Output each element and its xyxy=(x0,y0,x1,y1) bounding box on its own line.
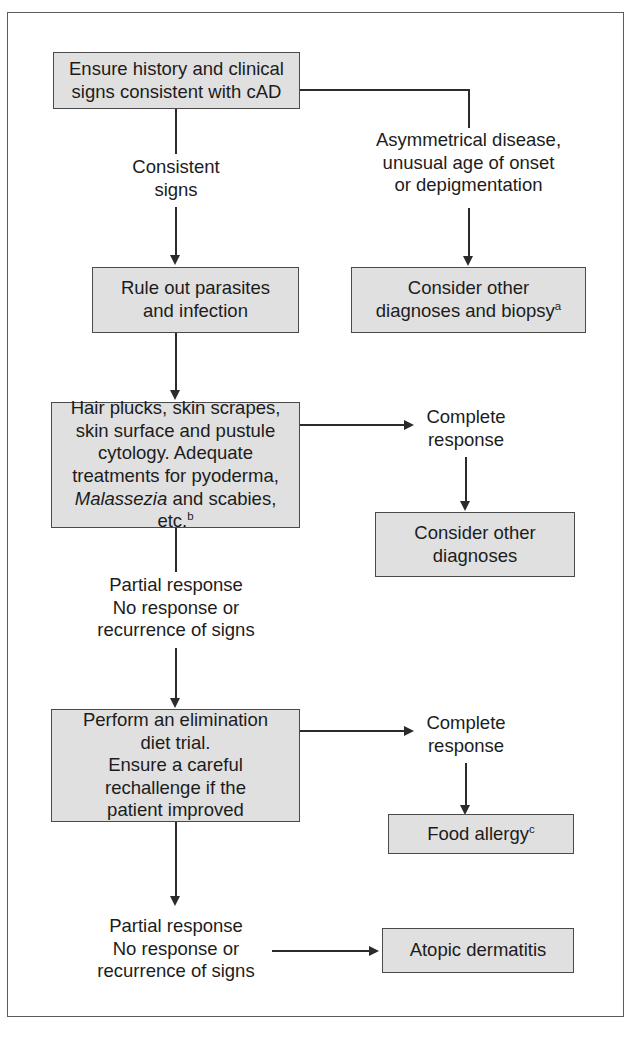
edge-label-consistent-signs-line1: Consistent xyxy=(132,156,219,177)
node-food-allergy-footnote: c xyxy=(529,823,535,835)
node-consider-other-line2: diagnoses xyxy=(433,545,517,566)
node-diagnostics-footnote: b xyxy=(187,510,193,522)
arrowhead-to-rule-out-icon xyxy=(170,255,180,265)
edge-complete-response-1-to-consider-other xyxy=(465,457,467,505)
node-diagnostics-line2: skin surface and pustule xyxy=(76,420,276,441)
edge-label-asymmetrical-line1: Asymmetrical disease, xyxy=(376,129,561,150)
flowchart-figure: Ensure history and clinical signs consis… xyxy=(0,0,636,1038)
edge-label-complete-response-2-line2: response xyxy=(428,735,504,756)
node-consider-other-biopsy: Consider other diagnoses and biopsya xyxy=(351,267,586,333)
arrowhead-to-consider-other-icon xyxy=(460,501,470,511)
node-elimination-diet-line5: patient improved xyxy=(107,799,244,820)
edge-label-consistent-signs-line2: signs xyxy=(154,179,197,200)
node-elimination-diet-line4: rechallenge if the xyxy=(105,777,246,798)
edge-label-partial-1-line3: recurrence of signs xyxy=(97,619,254,640)
edge-ensure-to-right xyxy=(300,89,470,91)
edge-label-consistent-signs: Consistent signs xyxy=(96,156,256,201)
edge-label-complete-response-1-line2: response xyxy=(428,429,504,450)
arrowhead-to-elimination-diet-icon xyxy=(170,698,180,708)
edge-partial-response-1-to-elimination-diet xyxy=(175,648,177,702)
edge-label-complete-response-1-line1: Complete xyxy=(426,406,505,427)
node-elimination-diet-line3: Ensure a careful xyxy=(108,754,243,775)
arrowhead-to-atopic-dermatitis-icon xyxy=(369,946,379,956)
node-ensure-history-line1: Ensure history and clinical xyxy=(69,58,284,79)
edge-label-partial-2-line1: Partial response xyxy=(109,915,243,936)
node-food-allergy-line1: Food allergy xyxy=(427,823,529,844)
edge-ensure-to-consistent-signs xyxy=(175,109,177,154)
edge-label-complete-response-2: Complete response xyxy=(391,712,541,757)
edge-label-complete-response-2-line1: Complete xyxy=(426,712,505,733)
node-ensure-history: Ensure history and clinical signs consis… xyxy=(53,52,300,109)
edge-partial-response-2-to-atopic-dermatitis xyxy=(272,950,371,952)
node-elimination-diet-line2: diet trial. xyxy=(141,732,211,753)
edge-label-asymmetrical-line3: or depigmentation xyxy=(394,174,542,195)
node-diagnostics-line5-italic: Malassezia xyxy=(75,488,168,509)
node-diagnostics-line1: Hair plucks, skin scrapes, xyxy=(71,397,281,418)
node-food-allergy: Food allergyc xyxy=(388,814,574,854)
arrowhead-to-partial-response-2-icon xyxy=(170,896,180,906)
edge-label-partial-1-line1: Partial response xyxy=(109,574,243,595)
node-consider-biopsy-line2: diagnoses and biopsy xyxy=(376,300,555,321)
node-diagnostics-line5-rest: and scabies, etc. xyxy=(157,488,276,532)
edge-label-partial-2-line3: recurrence of signs xyxy=(97,960,254,981)
node-rule-out-parasites: Rule out parasites and infection xyxy=(92,267,299,333)
edge-label-partial-2-line2: No response or xyxy=(113,938,239,959)
edge-elimination-diet-to-partial-response-2 xyxy=(175,822,177,900)
node-atopic-dermatitis-line1: Atopic dermatitis xyxy=(410,939,547,960)
node-ensure-history-line2: signs consistent with cAD xyxy=(72,81,282,102)
node-diagnostics: Hair plucks, skin scrapes, skin surface … xyxy=(51,402,300,528)
node-atopic-dermatitis: Atopic dermatitis xyxy=(382,928,574,973)
edge-label-complete-response-1: Complete response xyxy=(391,406,541,451)
edge-label-partial-1-line2: No response or xyxy=(113,597,239,618)
edge-consistent-signs-to-rule-out xyxy=(175,207,177,259)
edge-label-partial-no-response-2: Partial response No response or recurren… xyxy=(78,915,274,983)
edge-label-partial-no-response-1: Partial response No response or recurren… xyxy=(78,574,274,642)
edge-asymmetrical-to-consider-biopsy xyxy=(468,208,470,260)
node-consider-other-diagnoses: Consider other diagnoses xyxy=(375,512,575,577)
edge-rule-out-to-diagnostics xyxy=(175,333,177,393)
edge-diagnostics-to-partial-response-1 xyxy=(175,528,177,572)
edge-complete-response-2-to-food-allergy xyxy=(465,763,467,809)
node-elimination-diet-line1: Perform an elimination xyxy=(83,709,268,730)
node-consider-biopsy-line1: Consider other xyxy=(408,277,529,298)
node-rule-out-line2: and infection xyxy=(143,300,248,321)
node-rule-out-line1: Rule out parasites xyxy=(121,277,270,298)
node-elimination-diet: Perform an elimination diet trial. Ensur… xyxy=(51,709,300,822)
node-consider-biopsy-footnote: a xyxy=(555,300,561,312)
edge-label-asymmetrical-disease: Asymmetrical disease, unusual age of ons… xyxy=(346,129,591,197)
edge-right-down-to-asymmetrical xyxy=(468,89,470,128)
edge-label-asymmetrical-line2: unusual age of onset xyxy=(383,152,555,173)
node-consider-other-line1: Consider other xyxy=(414,522,535,543)
arrowhead-to-consider-biopsy-icon xyxy=(463,256,473,266)
node-diagnostics-line3: cytology. Adequate xyxy=(98,442,253,463)
node-diagnostics-line4: treatments for pyoderma, xyxy=(72,465,279,486)
